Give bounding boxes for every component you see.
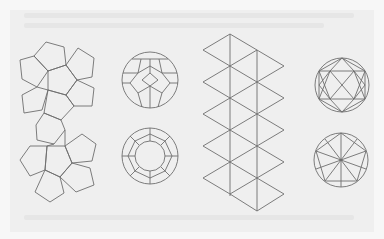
- polyhedra-figure: [0, 0, 384, 239]
- dodecahedron-net-top-rosette: [20, 42, 94, 120]
- icosahedron-net: [203, 34, 284, 211]
- dodecahedron-net-bottom-rosette: [20, 113, 96, 202]
- icosahedron-circle-top: [315, 58, 369, 112]
- dodecahedron-net: [20, 42, 96, 202]
- icosahedron-circle-bottom: [314, 133, 368, 187]
- dodecahedron-circle-top: [122, 52, 178, 108]
- dodecahedron-circle-bottom: [122, 128, 178, 184]
